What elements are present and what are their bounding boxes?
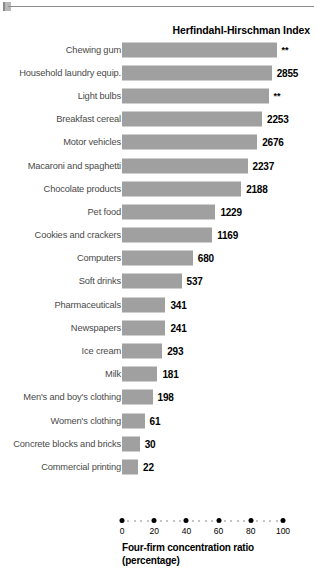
bar-category-label: Newspapers xyxy=(71,323,121,333)
x-axis-minor-dot xyxy=(269,520,271,522)
bar xyxy=(122,42,277,57)
bar xyxy=(122,274,182,289)
bar xyxy=(122,320,165,335)
bar-value-label: 2188 xyxy=(246,183,267,194)
bar-value-label: 1229 xyxy=(220,206,241,217)
bar-category-label: Chocolate products xyxy=(44,184,121,194)
bar-row: Pet food1229 xyxy=(0,200,318,223)
bar-category-label: Ice cream xyxy=(82,346,121,356)
x-axis-minor-dot xyxy=(166,520,168,522)
bar xyxy=(122,251,193,266)
x-axis-minor-dot xyxy=(173,520,175,522)
bar-row: Ice cream293 xyxy=(0,339,318,362)
bar-value-label: 2253 xyxy=(267,114,288,125)
x-axis-minor-dot xyxy=(147,520,149,522)
x-axis-minor-dot xyxy=(211,520,213,522)
bar xyxy=(122,297,165,312)
bar-row: Soft drinks537 xyxy=(0,270,318,293)
bar-category-label: Soft drinks xyxy=(79,276,121,286)
bar-value-label: 2855 xyxy=(277,67,298,78)
bar xyxy=(122,112,262,127)
bar xyxy=(122,436,140,451)
bar-category-label: Cookies and crackers xyxy=(35,230,121,240)
bar-row: Household laundry equip.2855 xyxy=(0,61,318,84)
x-axis-minor-dot xyxy=(276,520,278,522)
bar-category-label: Milk xyxy=(105,369,121,379)
bar-row: Light bulbs** xyxy=(0,84,318,107)
x-axis-tick-label: 40 xyxy=(182,526,191,536)
bar-row: Chewing gum** xyxy=(0,38,318,61)
bar-value-label: 2237 xyxy=(253,160,274,171)
bar xyxy=(122,228,212,243)
x-axis-minor-dot xyxy=(140,520,142,522)
x-axis-minor-dot xyxy=(224,520,226,522)
bar-row: Cookies and crackers1169 xyxy=(0,224,318,247)
x-axis-title-line1: Four-firm concentration ratio xyxy=(122,542,312,555)
x-axis-title: Four-firm concentration ratio (percentag… xyxy=(122,542,312,567)
bar-row: Pharmaceuticals341 xyxy=(0,293,318,316)
bar-category-label: Light bulbs xyxy=(78,91,121,101)
bar xyxy=(122,181,241,196)
x-axis-minor-dot xyxy=(256,520,258,522)
bar-row: Chocolate products2188 xyxy=(0,177,318,200)
x-axis-tick-label: 80 xyxy=(246,526,255,536)
bar xyxy=(122,204,215,219)
x-axis-minor-dot xyxy=(230,520,232,522)
bar-value-label: 181 xyxy=(162,369,178,380)
bar xyxy=(122,344,162,359)
x-axis-tick-dot xyxy=(248,518,253,523)
bar-value-label: 341 xyxy=(170,299,186,310)
bar-value-label: ** xyxy=(282,45,289,55)
chart-title: Herfindahl-Hirschman Index xyxy=(0,24,310,36)
bar-row: Macaroni and spaghetti2237 xyxy=(0,154,318,177)
x-axis-minor-dot xyxy=(127,520,129,522)
bar xyxy=(122,65,272,80)
bar-row: Commercial printing22 xyxy=(0,455,318,478)
bar-category-label: Pet food xyxy=(88,207,121,217)
bar-value-label: 680 xyxy=(198,253,214,264)
x-axis-minor-dot xyxy=(192,520,194,522)
x-axis-minor-dot xyxy=(243,520,245,522)
bar xyxy=(122,88,269,103)
bar-category-label: Chewing gum xyxy=(66,45,121,55)
bar-value-label: 198 xyxy=(158,392,174,403)
bar-value-label: ** xyxy=(274,91,281,101)
bar-category-label: Pharmaceuticals xyxy=(55,300,121,310)
bar-row: Milk181 xyxy=(0,363,318,386)
x-axis-minor-dot xyxy=(237,520,239,522)
bar-category-label: Breakfast cereal xyxy=(56,114,121,124)
x-axis-ticks xyxy=(122,518,283,525)
bar-row: Women's clothing61 xyxy=(0,409,318,432)
x-axis-tick-dot xyxy=(120,518,125,523)
bar xyxy=(122,367,157,382)
bar-category-label: Women's clothing xyxy=(50,416,121,426)
bar xyxy=(122,135,257,150)
bar xyxy=(122,158,248,173)
bar xyxy=(122,459,138,474)
bar-value-label: 61 xyxy=(150,415,161,426)
bar-category-label: Men's and boy's clothing xyxy=(23,392,121,402)
x-axis-tick-label: 20 xyxy=(149,526,158,536)
x-axis-tick-label: 60 xyxy=(214,526,223,536)
x-axis-minor-dot xyxy=(160,520,162,522)
x-axis-tick-dot xyxy=(216,518,221,523)
bar-category-label: Macaroni and spaghetti xyxy=(28,161,121,171)
x-axis-tick-dot xyxy=(184,518,189,523)
bar-value-label: 293 xyxy=(167,346,183,357)
bar xyxy=(122,413,145,428)
bar-value-label: 30 xyxy=(145,438,156,449)
x-axis-tick-dot xyxy=(281,518,286,523)
x-axis-tick-label: 0 xyxy=(120,526,125,536)
x-axis-minor-dot xyxy=(263,520,265,522)
x-axis-title-line2: (percentage) xyxy=(122,555,312,568)
bar-row: Men's and boy's clothing198 xyxy=(0,386,318,409)
bar-row: Breakfast cereal2253 xyxy=(0,108,318,131)
bar-rows: Chewing gum**Household laundry equip.285… xyxy=(0,38,318,479)
bar-value-label: 1169 xyxy=(217,230,238,241)
bar-row: Newspapers241 xyxy=(0,316,318,339)
bar-value-label: 22 xyxy=(143,461,154,472)
x-axis-minor-dot xyxy=(205,520,207,522)
x-axis-minor-dot xyxy=(134,520,136,522)
bar-category-label: Commercial printing xyxy=(41,462,121,472)
x-axis-minor-dot xyxy=(198,520,200,522)
